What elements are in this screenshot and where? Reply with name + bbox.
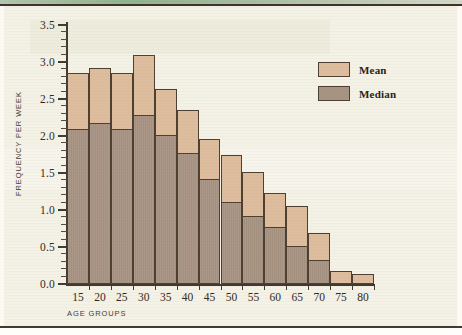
bar-segment-median [242,216,264,284]
bar-segment-median [89,123,111,284]
x-tick-label: 55 [248,291,260,303]
y-tick-minor [61,31,67,32]
x-tick-label: 20 [94,291,106,303]
x-tick-label: 25 [116,291,128,303]
y-tick-minor [61,54,67,55]
bar-segment-median [221,202,243,284]
bar-segment-median [155,135,177,284]
legend-label-mean: Mean [359,64,387,76]
bar-25[interactable] [111,73,133,284]
y-tick-label: 0.5 [40,241,55,253]
legend-item-mean: Mean [318,62,396,77]
x-tick-major [111,285,112,290]
bar-30[interactable] [133,55,155,284]
bar-segment-mean [330,271,352,284]
y-tick-major [58,24,67,26]
bar-35[interactable] [155,89,177,284]
y-tick-major [58,283,67,285]
x-tick-label: 60 [270,291,282,303]
y-tick-major [58,209,67,211]
bar-20[interactable] [89,68,111,284]
x-tick-major [374,285,375,290]
page-rule-top [0,4,462,6]
x-tick-label: 35 [160,291,172,303]
x-axis-title: AGE GROUPS [67,309,126,318]
x-tick-label: 45 [204,291,216,303]
bar-60[interactable] [264,193,286,284]
x-tick-label: 40 [182,291,194,303]
y-tick-major [58,98,67,100]
bar-segment-median [133,115,155,284]
legend-label-median: Median [359,88,396,100]
x-tick-major [133,285,134,290]
y-tick-label: 1.5 [40,167,55,179]
x-tick-label: 70 [313,291,325,303]
x-tick-label: 80 [357,291,369,303]
y-axis-title: FREQUENCY PER WEEK [14,91,23,196]
bar-segment-median [177,153,199,284]
x-tick-major [89,285,90,290]
x-tick-major [177,285,178,290]
bar-55[interactable] [242,172,264,284]
page-right-edge [457,6,462,326]
bar-segment-median [286,246,308,284]
x-tick-label: 65 [292,291,304,303]
bar-segment-median [199,179,221,284]
x-tick-major [221,285,222,290]
x-tick-major [242,285,243,290]
x-tick-major [155,285,156,290]
y-tick-label: 3.5 [40,19,55,31]
y-tick-label: 3.0 [40,56,55,68]
bar-segment-median [264,227,286,284]
page-left-edge [0,6,4,326]
x-tick-major [352,285,353,290]
x-tick-major [308,285,309,290]
legend-swatch-median-icon [318,86,350,101]
x-tick-major [264,285,265,290]
bar-50[interactable] [221,155,243,285]
y-tick-label: 2.5 [40,93,55,105]
bar-40[interactable] [177,110,199,284]
x-tick-label: 50 [226,291,238,303]
bar-segment-median [308,260,330,284]
bar-80[interactable] [352,274,374,284]
y-tick-minor [61,39,67,40]
bar-65[interactable] [286,206,308,284]
legend-item-median: Median [318,86,396,101]
bar-segment-median [111,129,133,284]
x-tick-label: 30 [138,291,150,303]
y-tick-minor [61,68,67,69]
y-tick-major [58,135,67,137]
y-tick-major [58,61,67,63]
x-tick-major [286,285,287,290]
bar-15[interactable] [67,73,89,284]
x-tick-major [330,285,331,290]
y-tick-minor [61,46,67,47]
bar-segment-median [67,129,89,284]
bar-segment-mean [352,274,374,284]
x-tick-major [199,285,200,290]
bar-75[interactable] [330,271,352,284]
y-tick-label: 2.0 [40,130,55,142]
y-tick-major [58,246,67,248]
figure-page: FREQUENCY PER WEEK AGE GROUPS 0.00.51.01… [0,0,462,335]
x-tick-label: 75 [335,291,347,303]
y-tick-major [58,172,67,174]
y-tick-label: 0.0 [40,278,55,290]
y-tick-label: 1.0 [40,204,55,216]
bar-70[interactable] [308,233,330,284]
chart-legend: Mean Median [318,62,396,110]
bar-45[interactable] [199,139,221,284]
x-tick-label: 15 [72,291,84,303]
legend-swatch-mean-icon [318,62,350,77]
page-bottom-margin [0,328,462,335]
